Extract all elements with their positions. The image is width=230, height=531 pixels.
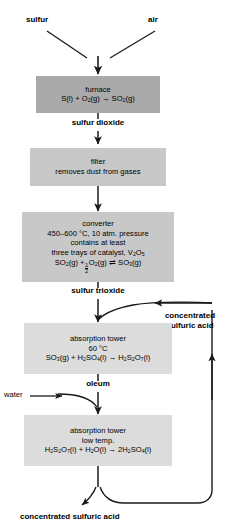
filter-subtitle: removes dust from gases <box>55 167 140 177</box>
half-fraction: 12 <box>85 263 88 275</box>
tower2-title: absorption tower <box>70 426 126 436</box>
tower1-temperature: 60 °C <box>88 344 107 354</box>
node-converter: converter 450–600 °C, 10 atm. pressure c… <box>22 212 174 282</box>
converter-catalyst: three trays of catalyst, V2O5 <box>51 248 144 258</box>
input-label-water: water <box>4 390 23 399</box>
converter-contains: contains at least <box>71 238 126 248</box>
input-label-sulfur: sulfur <box>26 15 48 25</box>
stream-label-sulfur-trioxide: sulfur trioxide <box>0 286 196 296</box>
node-furnace: furnace S(l) + O2(g) → SO2(g) <box>36 76 160 113</box>
equilibrium-arrow: ⇌ <box>109 258 116 267</box>
node-absorption-tower-2: absorption tower low temp. H2S2O7(l) + H… <box>24 415 172 466</box>
converter-conditions: 450–600 °C, 10 atm. pressure <box>47 229 148 239</box>
stream-label-sulfur-dioxide: sulfur dioxide <box>0 118 196 128</box>
recycle-line-2: sulfuric acid <box>166 321 213 330</box>
contact-process-flowchart: sulfur air water furnace S(l) + O2(g) → … <box>0 0 230 531</box>
tower1-title: absorption tower <box>70 334 126 344</box>
tower2-temperature: low temp. <box>82 436 115 446</box>
stream-label-product: concentrated sulfuric acid <box>20 512 180 522</box>
stream-label-oleum: oleum <box>0 379 196 389</box>
tower1-equation: SO3(g) + H2SO4(l) → H2S2O7(l) <box>46 353 150 363</box>
air-feed-line <box>110 31 155 58</box>
product-outlet-arrow <box>82 487 96 505</box>
recycle-line-1: concentrated <box>165 311 215 320</box>
tower2-equation: H2S2O7(l) + H2O(l) → 2H2SO4(l) <box>45 445 152 455</box>
input-label-air: air <box>148 15 158 25</box>
furnace-equation: S(l) + O2(g) → SO2(g) <box>61 94 134 104</box>
filter-title: filter <box>91 157 105 167</box>
sulfur-feed-line <box>47 31 87 58</box>
furnace-title: furnace <box>85 85 110 95</box>
converter-equation: SO2(g) +12O2(g) ⇌ SO3(g) <box>55 258 141 275</box>
water-join-curve <box>58 394 97 407</box>
converter-title: converter <box>82 219 114 229</box>
node-filter: filter removes dust from gases <box>30 148 166 186</box>
node-absorption-tower-1: absorption tower 60 °C SO3(g) + H2SO4(l)… <box>24 323 172 374</box>
